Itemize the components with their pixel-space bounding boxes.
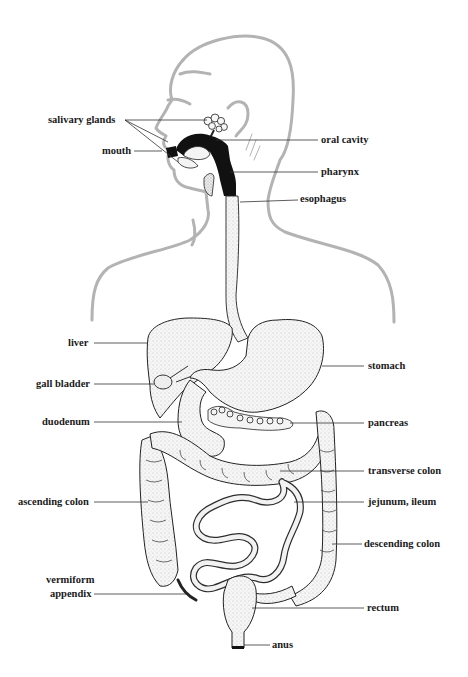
- label-rectum: rectum: [367, 602, 399, 614]
- label-stomach: stomach: [368, 360, 405, 372]
- label-liver: liver: [68, 337, 88, 349]
- label-pharynx: pharynx: [321, 166, 359, 178]
- label-jejunum-ileum: jejunum, ileum: [368, 496, 436, 508]
- label-pancreas: pancreas: [368, 417, 408, 429]
- label-duodenum: duodenum: [42, 416, 90, 428]
- label-anus: anus: [272, 639, 293, 651]
- rectum: [223, 576, 256, 648]
- label-salivary-glands: salivary glands: [48, 114, 115, 126]
- label-ascending-colon: ascending colon: [18, 496, 89, 508]
- label-descending-colon: descending colon: [364, 538, 440, 550]
- label-vermiform-appendix-line1: vermiform: [46, 574, 94, 586]
- label-vermiform-appendix-line2: appendix: [50, 588, 91, 600]
- label-transverse-colon: transverse colon: [368, 465, 441, 477]
- label-esophagus: esophagus: [300, 193, 346, 205]
- label-gall-bladder: gall bladder: [36, 378, 90, 390]
- oral-cavity-pharynx: [166, 134, 236, 196]
- esophagus-tube: [226, 196, 248, 342]
- label-mouth: mouth: [102, 145, 131, 157]
- gall-bladder: [154, 375, 172, 389]
- body-outline: [92, 36, 394, 322]
- label-oral-cavity: oral cavity: [321, 134, 369, 146]
- anus: [232, 646, 244, 649]
